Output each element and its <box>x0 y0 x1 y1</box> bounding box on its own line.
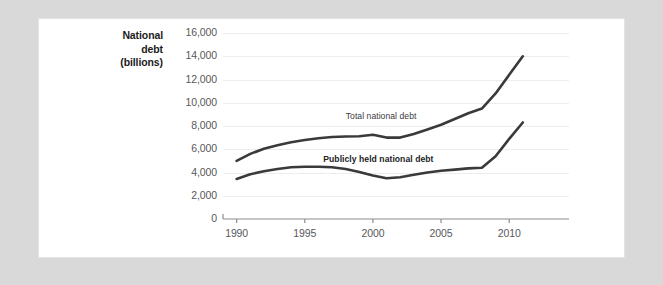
axis-lines <box>223 214 569 223</box>
data-series-line <box>237 123 523 179</box>
series-lines <box>39 19 626 259</box>
line-chart-figure: National debt (billions) 02,0004,0006,00… <box>39 19 626 259</box>
series-label: Publicly held national debt <box>323 154 433 164</box>
series-label: Total national debt <box>346 111 417 121</box>
chart-card: National debt (billions) 02,0004,0006,00… <box>38 18 625 258</box>
data-series-line <box>237 56 523 161</box>
